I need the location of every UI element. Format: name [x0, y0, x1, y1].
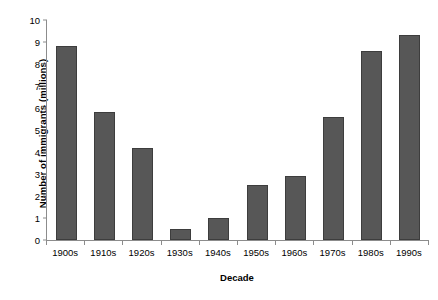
bar-1910s: [94, 112, 115, 240]
bar-slot: [314, 20, 352, 240]
x-axis-title: Decade: [46, 272, 428, 283]
bar-1950s: [247, 185, 268, 240]
x-axis-ticks: [46, 241, 428, 246]
x-axis-tick-mark: [161, 241, 162, 245]
bar-slot: [200, 20, 238, 240]
bar-1970s: [323, 117, 344, 240]
bar-slot: [391, 20, 429, 240]
x-axis-tick-mark: [237, 241, 238, 245]
x-axis-tick-label: 1910s: [84, 247, 122, 258]
x-axis-tick-mark: [390, 241, 391, 245]
bar-slot: [238, 20, 276, 240]
x-axis-tick-mark: [84, 241, 85, 245]
bar-1900s: [56, 46, 77, 240]
x-axis-tick-label: 1940s: [199, 247, 237, 258]
plot-area: 012345678910: [46, 20, 429, 241]
x-axis-tick-label: 1970s: [313, 247, 351, 258]
x-axis-tick-label: 1920s: [122, 247, 160, 258]
x-axis-tick-label: 1950s: [237, 247, 275, 258]
bar-slot: [353, 20, 391, 240]
x-axis-tick-mark: [313, 241, 314, 245]
bar-series: [47, 20, 429, 240]
x-axis-tick-label: 1990s: [390, 247, 428, 258]
x-axis-tick-mark: [46, 241, 47, 245]
x-axis-tick-label: 1980s: [352, 247, 390, 258]
bar-1960s: [285, 176, 306, 240]
x-axis-tick-mark: [275, 241, 276, 245]
bar-1930s: [170, 229, 191, 240]
bar-slot: [123, 20, 161, 240]
bar-slot: [162, 20, 200, 240]
x-axis-tick-mark: [122, 241, 123, 245]
x-axis-tick-mark: [352, 241, 353, 245]
x-axis-tick-label: 1900s: [46, 247, 84, 258]
x-axis-tick-label: 1930s: [161, 247, 199, 258]
bar-1980s: [361, 51, 382, 240]
bar-slot: [47, 20, 85, 240]
bar-1940s: [208, 218, 229, 240]
bar-1990s: [399, 35, 420, 240]
bar-slot: [276, 20, 314, 240]
x-axis-tick-mark: [199, 241, 200, 245]
x-axis-tick-label: 1960s: [275, 247, 313, 258]
x-axis-tick-mark: [428, 241, 429, 245]
bar-chart: Number of immigrants (millions) 01234567…: [0, 0, 438, 300]
x-axis-labels: 1900s1910s1920s1930s1940s1950s1960s1970s…: [46, 247, 428, 258]
bar-slot: [85, 20, 123, 240]
bar-1920s: [132, 148, 153, 240]
